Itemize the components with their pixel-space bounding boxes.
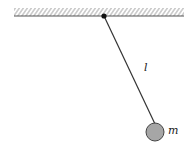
length-label: l [144, 61, 148, 74]
pendulum-diagram: l m [0, 0, 189, 146]
mass-label: m [168, 124, 178, 137]
pendulum-bob [146, 123, 164, 141]
pivot-point [101, 13, 106, 18]
ceiling [14, 8, 184, 16]
ceiling-hatch [14, 8, 184, 16]
